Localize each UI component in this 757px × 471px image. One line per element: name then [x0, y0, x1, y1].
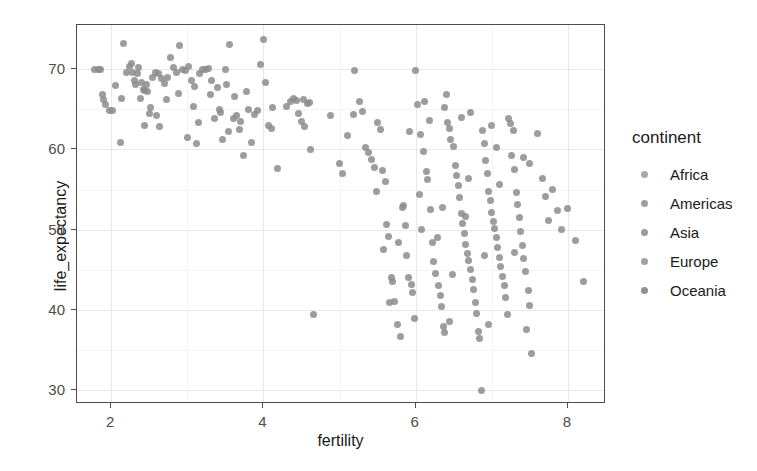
data-point [478, 387, 485, 394]
data-point [499, 273, 506, 280]
gridline-minor-horizontal [77, 350, 604, 351]
data-point [336, 160, 343, 167]
y-tick-mark [71, 309, 76, 310]
data-point [472, 299, 479, 306]
data-point [465, 175, 472, 182]
data-point [484, 170, 491, 177]
x-tick-mark [110, 403, 111, 408]
data-point [501, 282, 508, 289]
data-point [488, 209, 495, 216]
data-point [216, 106, 223, 113]
x-tick-mark [567, 403, 568, 408]
data-point [144, 88, 151, 95]
data-point [373, 188, 380, 195]
data-point [402, 222, 409, 229]
data-point [164, 74, 171, 81]
data-point [383, 221, 390, 228]
data-point [522, 268, 529, 275]
data-point [231, 93, 238, 100]
data-point [274, 165, 281, 172]
data-point [240, 152, 247, 159]
scatter-plot-figure: life_expectancy fertility continent Afri… [0, 0, 757, 471]
data-point [112, 82, 119, 89]
data-point [416, 191, 423, 198]
data-point [539, 175, 546, 182]
data-point [523, 326, 530, 333]
legend-item-label: Asia [670, 224, 699, 241]
data-point [195, 119, 202, 126]
data-point [496, 181, 503, 188]
data-point [118, 95, 125, 102]
legend-item-africa[interactable]: Africa [632, 160, 733, 189]
data-point [482, 157, 489, 164]
data-point [350, 111, 357, 118]
data-point [254, 107, 261, 114]
data-point [511, 166, 518, 173]
data-point [406, 128, 413, 135]
data-point [461, 230, 468, 237]
data-point [356, 98, 363, 105]
legend-item-label: Africa [670, 166, 708, 183]
legend-item-oceania[interactable]: Oceania [632, 276, 733, 305]
data-point [437, 292, 444, 299]
data-point [214, 84, 221, 91]
data-point [153, 112, 160, 119]
legend: continent AfricaAmericasAsiaEuropeOceani… [632, 128, 733, 305]
data-point [456, 194, 463, 201]
gridline-minor-horizontal [77, 190, 604, 191]
data-point [190, 103, 197, 110]
data-point [167, 54, 174, 61]
data-point [494, 244, 501, 251]
data-point [257, 61, 264, 68]
data-point [485, 321, 492, 328]
data-point [469, 276, 476, 283]
y-tick-mark [71, 389, 76, 390]
data-point [516, 214, 523, 221]
legend-title: continent [632, 128, 733, 148]
data-point [262, 79, 269, 86]
data-point [519, 242, 526, 249]
data-point [307, 146, 314, 153]
x-tick-label: 4 [258, 414, 266, 429]
data-point [379, 167, 386, 174]
legend-item-americas[interactable]: Americas [632, 189, 733, 218]
data-point [268, 125, 275, 132]
data-point [517, 228, 524, 235]
legend-dot [641, 200, 648, 207]
data-point [434, 234, 441, 241]
data-point [467, 266, 474, 273]
data-point [418, 226, 425, 233]
gridline-major-horizontal [77, 310, 604, 311]
y-tick-label: 60 [0, 141, 65, 156]
gridline-major-horizontal [77, 230, 604, 231]
data-point [236, 126, 243, 133]
data-point [421, 98, 428, 105]
data-point [403, 252, 410, 259]
data-point [191, 83, 198, 90]
legend-item-europe[interactable]: Europe [632, 247, 733, 276]
data-point [163, 96, 170, 103]
legend-dot [641, 229, 648, 236]
data-point [545, 217, 552, 224]
data-point [377, 126, 384, 133]
legend-item-asia[interactable]: Asia [632, 218, 733, 247]
data-point [481, 252, 488, 259]
data-point [397, 333, 404, 340]
legend-key-dot-icon [632, 258, 656, 265]
data-point [417, 131, 424, 138]
data-point [411, 315, 418, 322]
data-point [389, 278, 396, 285]
data-point [223, 81, 230, 88]
data-point [128, 60, 135, 67]
data-point [481, 140, 488, 147]
data-point [534, 130, 541, 137]
data-point [117, 139, 124, 146]
data-point [420, 148, 427, 155]
data-point [558, 226, 565, 233]
gridline-major-horizontal [77, 390, 604, 391]
plot-panel [76, 24, 605, 403]
data-point [502, 294, 509, 301]
data-point [306, 99, 313, 106]
data-point [462, 213, 469, 220]
legend-key-dot-icon [632, 229, 656, 236]
